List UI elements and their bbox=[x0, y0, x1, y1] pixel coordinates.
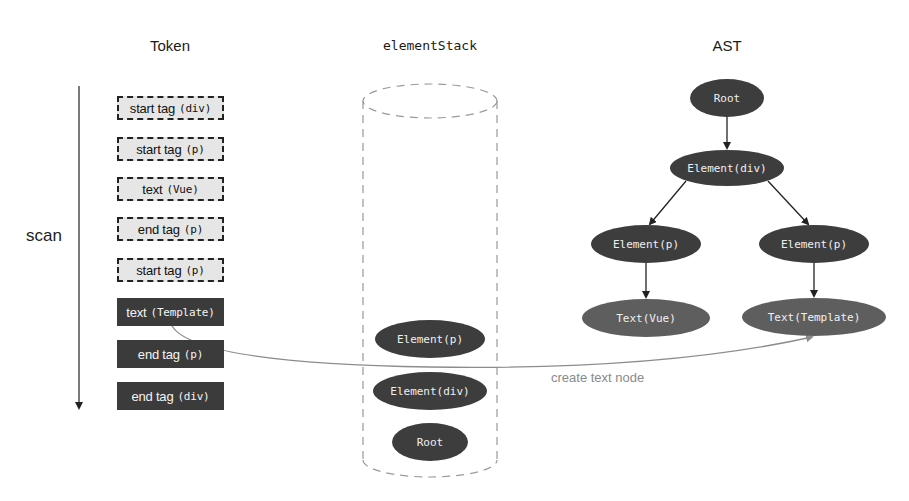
create-text-node-connector bbox=[172, 326, 812, 367]
token-start-tag-p-2: start tag(p) bbox=[117, 258, 224, 282]
ast-node-text-vue bbox=[582, 299, 710, 337]
stack-cylinder bbox=[363, 84, 497, 477]
token-end-tag-p-2: end tag(p) bbox=[117, 340, 224, 368]
token-type: end tag bbox=[138, 347, 180, 362]
stack-node-element-p bbox=[375, 320, 485, 358]
create-text-node-caption: create text node bbox=[551, 370, 644, 385]
ast-column-title: AST bbox=[712, 36, 741, 56]
token-type: text bbox=[142, 182, 162, 197]
scan-label: scan bbox=[26, 226, 62, 246]
token-text-vue: text(Vue) bbox=[117, 177, 224, 201]
token-arg: (p) bbox=[184, 223, 203, 236]
token-text-template: text(Template) bbox=[117, 298, 224, 326]
token-arg: (Template) bbox=[150, 306, 214, 319]
token-arg: (p) bbox=[185, 143, 204, 156]
token-type: start tag bbox=[130, 101, 175, 116]
ast-node-root bbox=[690, 79, 764, 117]
ast-node-element-div bbox=[670, 150, 784, 186]
token-arg: (p) bbox=[184, 348, 203, 361]
diagram-canvas: Token elementStack AST scan start tag(di… bbox=[0, 0, 909, 501]
token-end-tag-p: end tag(p) bbox=[117, 217, 224, 241]
token-start-tag-div: start tag(div) bbox=[117, 96, 224, 120]
token-column-title: Token bbox=[150, 36, 190, 56]
token-arg: (div) bbox=[179, 102, 211, 115]
token-end-tag-div: end tag(div) bbox=[117, 382, 224, 410]
token-arg: (Vue) bbox=[167, 183, 199, 196]
token-type: start tag bbox=[136, 142, 181, 157]
stack-column-title: elementStack bbox=[383, 36, 477, 56]
ast-node-element-p-right bbox=[759, 225, 869, 263]
token-type: text bbox=[126, 305, 146, 320]
diagram-graphics bbox=[0, 0, 909, 501]
ast-edges bbox=[646, 117, 814, 297]
token-arg: (p) bbox=[185, 264, 204, 277]
ast-node-text-template bbox=[742, 298, 886, 336]
stack-node-element-div bbox=[373, 372, 487, 410]
token-type: end tag bbox=[131, 389, 173, 404]
ast-node-element-p-left bbox=[591, 225, 701, 263]
token-start-tag-p: start tag(p) bbox=[117, 137, 224, 161]
token-arg: (div) bbox=[177, 390, 209, 403]
token-type: end tag bbox=[138, 222, 180, 237]
stack-node-root bbox=[392, 423, 468, 461]
token-type: start tag bbox=[136, 263, 181, 278]
